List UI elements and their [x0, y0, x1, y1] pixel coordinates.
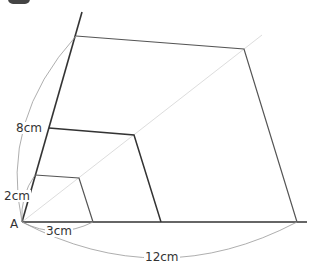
left-ray [22, 12, 82, 222]
large-quadrilateral [76, 36, 297, 222]
small-quadrilateral [35, 175, 93, 222]
label-12cm: 12cm [144, 251, 180, 263]
label-8cm: 8cm [15, 122, 43, 134]
label-point-a: A [9, 218, 19, 230]
label-3cm: 3cm [45, 225, 73, 237]
label-2cm: 2cm [3, 190, 31, 202]
medium-quadrilateral [49, 128, 161, 222]
